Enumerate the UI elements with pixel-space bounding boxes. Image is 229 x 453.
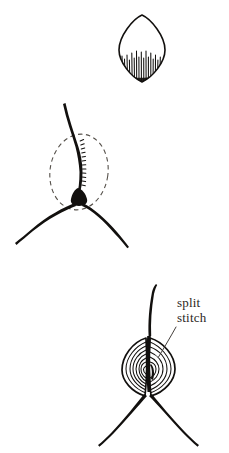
left-leg-thread — [15, 203, 76, 245]
panel-1-hatched-petal — [119, 15, 166, 86]
panel-2-junction — [15, 103, 129, 248]
split-stitch-label-line-2: stitch — [177, 310, 207, 325]
right-leg-thread — [82, 203, 129, 248]
lower-right-leg — [149, 394, 199, 447]
split-stitch-label-line-1: split — [177, 295, 201, 310]
upper-thread — [63, 103, 83, 172]
center-split-thread — [146, 336, 151, 392]
petal-base-shading — [119, 70, 166, 86]
illustration-page: split stitch — [0, 0, 229, 453]
split-stitch-illustration: split stitch — [0, 0, 229, 453]
knot-blob — [71, 188, 87, 206]
lower-left-leg — [98, 394, 147, 447]
top-stem-thread — [148, 284, 157, 336]
label-leader-line — [159, 327, 177, 357]
petal-outline — [119, 15, 165, 82]
panel-3-split-stitch: split stitch — [98, 284, 207, 447]
